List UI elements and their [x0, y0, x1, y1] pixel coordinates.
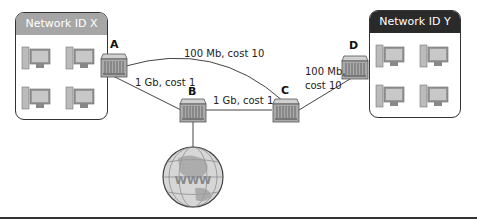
globe-www-icon: WWW	[163, 147, 223, 207]
routing-diagram: Network ID X	[0, 0, 477, 221]
router-c-label: C	[281, 84, 289, 97]
link-c-d-label-line1: 100 Mb,	[305, 66, 345, 77]
link-c-d-label-line2: cost 10	[305, 80, 342, 91]
router-d-label: D	[349, 39, 358, 52]
link-b-c-label: 1 Gb, cost 1	[213, 95, 273, 106]
link-a-c-label: 100 Mb, cost 10	[184, 48, 264, 59]
bottom-divider	[0, 217, 477, 219]
router-b-icon	[180, 99, 206, 122]
router-a-label: A	[110, 38, 119, 51]
router-c-icon	[273, 99, 299, 122]
routers-layer: WWW	[0, 0, 477, 221]
router-a-icon	[101, 54, 127, 77]
link-a-b-label: 1 Gb, cost 1	[135, 77, 195, 88]
www-text: WWW	[175, 174, 211, 187]
router-d-icon	[342, 56, 368, 79]
